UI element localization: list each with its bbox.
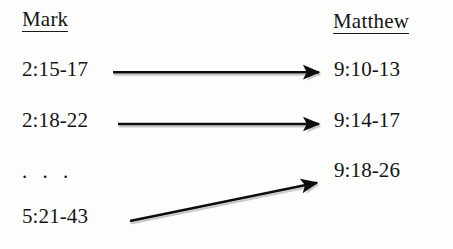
mark-ellipsis: . . . [22,160,73,182]
matthew-passage-3: 9:18-26 [334,159,400,181]
mark-passage-3: 5:21-43 [22,205,88,227]
column-header-mark: Mark [22,8,68,32]
correspondence-diagram: Mark Matthew 2:15-17 2:18-22 . . . 5:21-… [0,0,453,249]
matthew-passage-2: 9:14-17 [334,109,400,131]
arrow-mark-2-15-17-to-matthew-9-10-13 [113,72,320,74]
column-header-matthew: Matthew [333,10,409,34]
mark-passage-1: 2:15-17 [22,58,88,80]
mark-passage-2: 2:18-22 [22,109,88,131]
arrow-mark-2-18-22-to-matthew-9-14-17 [118,124,320,126]
matthew-passage-1: 9:10-13 [334,58,400,80]
arrow-mark-5-21-43-to-matthew-9-18-26 [130,183,318,224]
